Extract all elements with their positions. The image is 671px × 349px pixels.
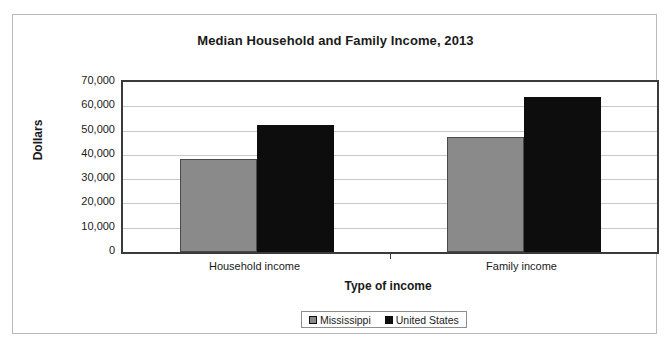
chart-frame: Median Household and Family Income, 2013… xyxy=(12,14,657,334)
bar-mississippi-family-income[interactable] xyxy=(447,137,524,252)
bar-mississippi-household-income[interactable] xyxy=(180,159,257,252)
bar-united-states-family-income[interactable] xyxy=(524,97,601,252)
y-axis-tick-label: 40,000 xyxy=(55,147,115,159)
y-axis-tick-label: 30,000 xyxy=(55,171,115,183)
legend-swatch-icon xyxy=(385,316,393,324)
x-axis-category-label: Household income xyxy=(121,260,388,272)
plot-area xyxy=(121,80,659,254)
y-axis-tick-label: 0 xyxy=(55,244,115,256)
legend-label: Mississippi xyxy=(320,314,371,326)
legend-label: United States xyxy=(396,314,459,326)
y-axis-tick-label: 70,000 xyxy=(55,74,115,86)
y-axis-tick-label: 10,000 xyxy=(55,220,115,232)
y-axis-title: Dollars xyxy=(31,95,45,185)
legend-item-mississippi[interactable]: Mississippi xyxy=(309,314,371,326)
y-axis-tick-labels: 010,00020,00030,00040,00050,00060,00070,… xyxy=(49,80,115,250)
y-axis-tick-label: 60,000 xyxy=(55,98,115,110)
legend-swatch-icon xyxy=(309,316,317,324)
x-axis-tick xyxy=(390,252,391,259)
x-axis-title: Type of income xyxy=(121,279,655,293)
bar-united-states-household-income[interactable] xyxy=(257,125,334,252)
chart-legend: MississippiUnited States xyxy=(301,311,467,328)
y-axis-tick-label: 50,000 xyxy=(55,123,115,135)
y-axis-tick-label: 20,000 xyxy=(55,195,115,207)
x-axis-category-label: Family income xyxy=(388,260,655,272)
legend-item-united-states[interactable]: United States xyxy=(385,314,459,326)
chart-title: Median Household and Family Income, 2013 xyxy=(13,33,658,48)
